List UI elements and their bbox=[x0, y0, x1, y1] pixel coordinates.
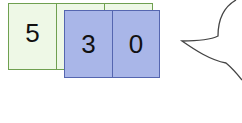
speech-bubble-icon bbox=[0, 0, 242, 123]
